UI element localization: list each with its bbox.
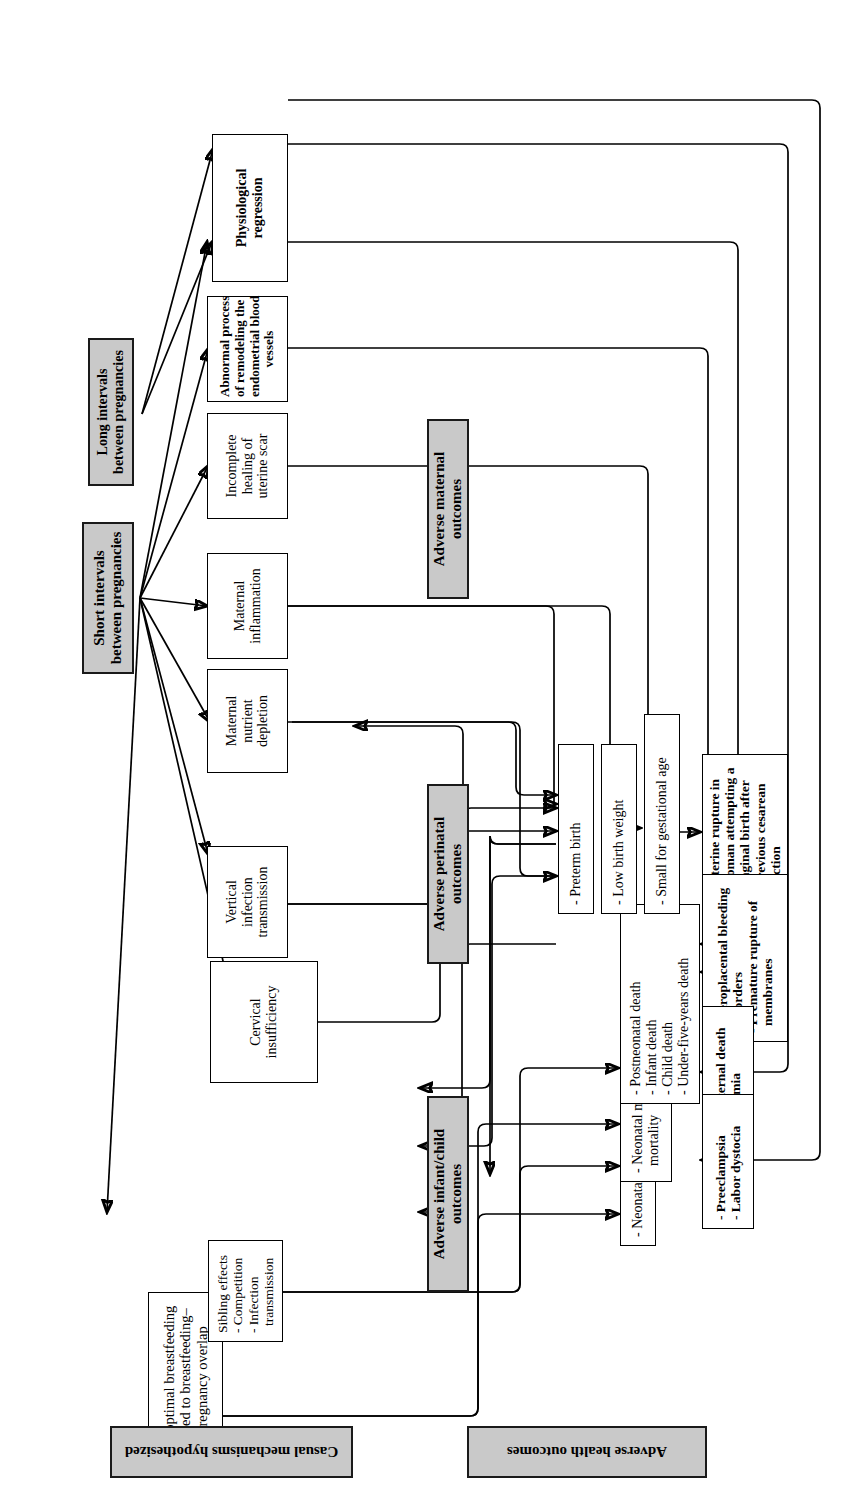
figure-page: Short intervals between pregnancies Long… <box>0 0 860 1504</box>
exposure-short-intervals[interactable]: Short intervals between pregnancies <box>82 522 134 674</box>
legend-adverse-outcomes: Adverse health outcomes <box>467 1426 707 1478</box>
outcome-child-deaths[interactable]: - Postneonatal death - Infant death - Ch… <box>620 904 700 1104</box>
outcome-header-infant-child: Adverse infant/child outcomes <box>427 1096 469 1292</box>
mechanism-maternal-nutrient-depletion[interactable]: Maternal nutrient depletion <box>207 669 288 773</box>
exposure-long-intervals[interactable]: Long intervals between pregnancies <box>88 338 134 486</box>
outcome-preeclampsia-dystocia[interactable]: - Preeclampsia - Labor dystocia <box>702 1094 754 1229</box>
mechanism-maternal-inflammation[interactable]: Maternal inflammation <box>207 553 288 659</box>
mechanism-physiological-regression[interactable]: Physiological regression <box>212 134 288 282</box>
mechanism-vertical-infection-transmission[interactable]: Vertical infection transmission <box>207 846 288 958</box>
outcome-low-birth-weight[interactable]: - Low birth weight <box>601 744 637 914</box>
mechanism-sibling-effects[interactable]: Sibling effects - Competition - Infectio… <box>208 1240 283 1342</box>
diagram-stage: Short intervals between pregnancies Long… <box>0 0 860 1504</box>
outcome-header-perinatal: Adverse perinatal outcomes <box>427 784 469 964</box>
long-interval-fan <box>142 149 213 414</box>
outcome-header-maternal: Adverse maternal outcomes <box>427 419 469 599</box>
mechanism-cervical-insufficiency[interactable]: Cervical insufficiency <box>210 961 318 1083</box>
mechanism-incomplete-healing-uterine-scar[interactable]: Incomplete healing of uterine scar <box>207 413 288 519</box>
mechanism-abnormal-remodeling[interactable]: Abnormal process of remodeling the endom… <box>207 296 288 402</box>
outcome-preterm-birth[interactable]: - Preterm birth <box>558 744 594 914</box>
outcome-small-for-gestational-age[interactable]: - Small for gestational age <box>644 714 680 914</box>
legend-casual-mechanisms: Casual mechanisms hypothesized <box>110 1426 353 1478</box>
